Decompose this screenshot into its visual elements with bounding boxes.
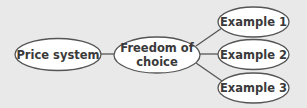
node-example-3: Example 3	[218, 73, 289, 103]
node-price-system: Price system	[15, 39, 101, 71]
node-freedom-of-choice-label-line2: choice	[136, 55, 178, 69]
node-example-2-label: Example 2	[220, 48, 287, 62]
node-freedom-of-choice: Freedom of choice	[114, 37, 200, 73]
node-example-3-label: Example 3	[220, 81, 287, 95]
edge-freedom-to-example-1	[196, 28, 222, 46]
node-price-system-label: Price system	[16, 48, 99, 62]
node-example-2: Example 2	[218, 40, 289, 70]
node-freedom-of-choice-label-line1: Freedom of	[120, 41, 194, 55]
node-example-1: Example 1	[218, 7, 289, 37]
node-example-1-label: Example 1	[220, 15, 287, 29]
edge-freedom-to-example-3	[196, 63, 222, 81]
concept-map: Price system Freedom of choice Example 1…	[0, 0, 307, 108]
